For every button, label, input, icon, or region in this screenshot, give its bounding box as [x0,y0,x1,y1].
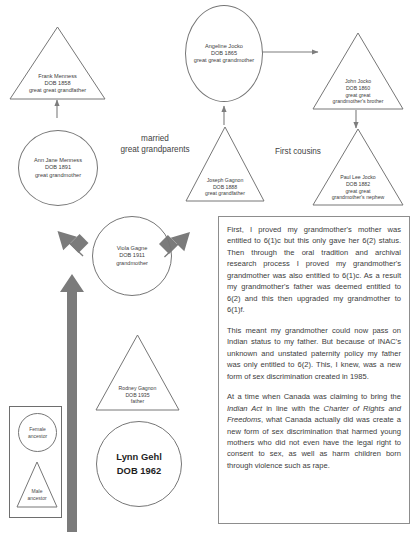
node-rodney-gagnon[interactable]: Rodney Gagnon DOB 1935 father [95,334,180,411]
label-line: great grandparents [112,144,198,155]
node-line: DOB 1891 [45,164,71,171]
node-line: Joseph Gagnon [207,177,244,184]
node-angeline-jocko[interactable]: Angeline Jocko DOB 1865 great great gran… [185,5,263,102]
node-line: Frank Menness [38,73,77,80]
node-line: DOB 1858 [44,80,70,87]
node-line: Ann Jane Menness [34,157,82,164]
legend-female-ancestor: Female ancestor [18,413,57,452]
node-line: DOB 1860 [346,85,370,92]
node-line: DOB 1888 [213,184,237,191]
legend-line: ancestor [28,433,47,440]
node-line: great great [345,188,370,195]
node-line: Rodney Gagnon [119,385,157,392]
narrative-paragraph-1: First, I proved my grandmother's mother … [227,224,401,316]
node-line: DOB 1882 [346,181,370,188]
node-line: grandmother's nephew [332,194,385,201]
node-ann-jane-menness[interactable]: Ann Jane Menness DOB 1891 great grandmot… [18,130,98,206]
node-line: Viola Gagne [117,245,148,252]
node-line: Paul Lee Jocko [340,174,375,181]
narrative-paragraph-3: At a time when Canada was claiming to br… [227,391,401,471]
legend-male-ancestor: Male ancestor [16,461,58,508]
narrative-text: in line with the [262,404,323,413]
node-line: grandmother [116,260,148,267]
label-first-cousins: First cousins [262,146,334,157]
node-line: great great grandfather [29,87,86,94]
node-line: John Jocko [345,78,371,85]
narrative-text: At a time when Canada was claiming to br… [227,392,401,401]
node-john-jocko[interactable]: John Jocko DOB 1860 great great grandmot… [312,32,404,110]
node-frank-menness[interactable]: Frank Menness DOB 1858 great great grand… [9,26,106,100]
node-line: Lynn Gehl [116,450,162,464]
legend-box: Female ancestor Male ancestor [9,406,62,518]
node-line: Angeline Jocko [205,43,243,50]
label-line: First cousins [262,146,334,157]
thick-arrow-viola-to-ann [58,231,89,257]
node-line: grandmother's brother [333,98,384,105]
label-line: married [112,133,198,144]
node-line: DOB 1911 [119,252,145,259]
node-line: great grandfather [205,190,245,197]
legend-line: ancestor [27,495,46,502]
node-line: DOB 1865 [211,50,237,57]
node-line: great great grandmother [194,57,254,64]
indian-act-citation: Indian Act [227,404,262,413]
node-line: DOB 1935 [125,392,149,399]
node-paul-lee-jocko[interactable]: Paul Lee Jocko DOB 1882 great great gran… [312,128,404,206]
thick-arrow-lynn-lineage [60,274,84,532]
node-lynn-gehl[interactable]: Lynn Gehl DOB 1962 [96,421,182,507]
label-married-great-grandparents: married great grandparents [112,133,198,155]
node-line: great grandmother [35,172,81,179]
node-line: great great [345,92,370,99]
node-viola-gagne[interactable]: Viola Gagne DOB 1911 grandmother [92,216,172,296]
narrative-paragraph-2: This meant my grandmother could now pass… [227,325,401,382]
node-line: DOB 1962 [117,464,161,478]
narrative-textbox: First, I proved my grandmother's mother … [218,216,410,524]
node-line: father [131,398,144,405]
